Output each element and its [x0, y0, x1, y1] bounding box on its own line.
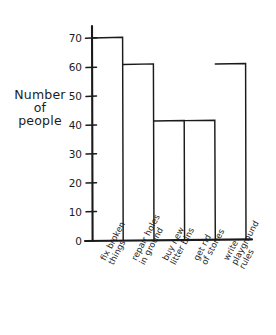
bar-write-playground-rules	[215, 64, 246, 241]
bar-repair-holes-in-ground	[123, 64, 154, 241]
y-axis-line	[92, 26, 93, 241]
bar-get-rid-of-stones	[185, 120, 216, 240]
bar-chart: Number of people 70 60 50 40 30 20 10 0	[0, 0, 276, 335]
chart-plot-area	[0, 0, 276, 335]
bar-fix-broken-things	[93, 37, 124, 241]
